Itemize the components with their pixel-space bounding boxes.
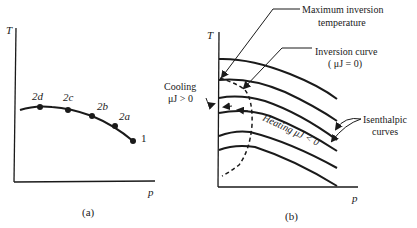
p-axis-a bbox=[14, 181, 155, 182]
joule-thomson-diagram: T p 2d 2c 2b 2a 1 (a) T p bbox=[0, 0, 417, 228]
panel-a: T p 2d 2c 2b 2a 1 (a) bbox=[6, 24, 155, 219]
max-inversion-leader bbox=[222, 9, 300, 77]
p-axis-label-a: p bbox=[147, 186, 154, 198]
cooling-leader bbox=[206, 98, 214, 104]
isenthalpic-leader-2 bbox=[332, 119, 361, 141]
point-2d bbox=[37, 104, 43, 110]
caption-a: (a) bbox=[82, 206, 95, 219]
label-2d: 2d bbox=[32, 90, 44, 102]
point-2a bbox=[112, 123, 118, 129]
label-2a: 2a bbox=[119, 110, 131, 122]
label-1: 1 bbox=[141, 132, 147, 144]
label-2c: 2c bbox=[63, 91, 74, 103]
panel-b: T p Maximum inversion temperature Invers… bbox=[164, 4, 407, 223]
cooling-label-2: μJ > 0 bbox=[168, 93, 193, 104]
inversion-curve-label-2: ( μJ = 0) bbox=[328, 58, 362, 70]
cooling-label-1: Cooling bbox=[164, 81, 196, 92]
isenthalpic-label-1: Isenthalpic bbox=[363, 114, 407, 125]
t-axis-b bbox=[218, 32, 219, 187]
point-1 bbox=[130, 138, 136, 144]
heating-label: Heating μJ < 0 bbox=[260, 111, 321, 147]
t-axis-label-b: T bbox=[207, 29, 214, 41]
point-2c bbox=[65, 107, 71, 113]
isenthalpic-label-2: curves bbox=[372, 126, 398, 137]
max-inversion-label-1: Maximum inversion bbox=[302, 4, 383, 15]
max-inversion-label-2: temperature bbox=[318, 17, 366, 28]
p-axis-label-b: p bbox=[351, 192, 358, 204]
t-axis-label-a: T bbox=[6, 24, 13, 36]
cooling-flow-arrow bbox=[224, 106, 232, 107]
inversion-curve-label-1: Inversion curve bbox=[315, 46, 378, 57]
diagram-canvas: T p 2d 2c 2b 2a 1 (a) T p bbox=[0, 0, 417, 228]
label-2b: 2b bbox=[97, 100, 109, 112]
inversion-curve bbox=[220, 78, 252, 176]
caption-b: (b) bbox=[285, 210, 298, 223]
point-2b bbox=[89, 113, 95, 119]
t-axis-a bbox=[14, 28, 16, 182]
